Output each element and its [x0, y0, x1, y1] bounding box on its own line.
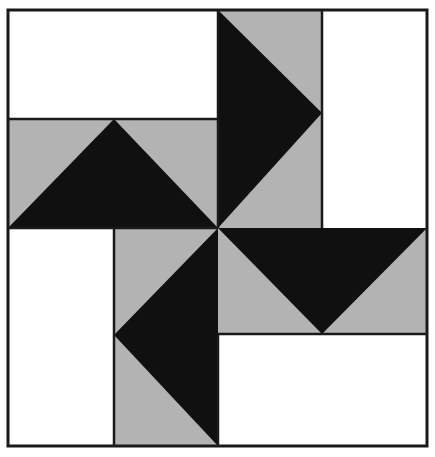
top-right-white-rect	[322, 10, 427, 228]
quilt-canvas	[0, 0, 435, 457]
top-left-white-rect	[8, 10, 218, 119]
quilt-block-figure	[0, 0, 435, 457]
bottom-left-white-rect	[8, 228, 114, 446]
bottom-right-white-rect	[218, 334, 427, 446]
